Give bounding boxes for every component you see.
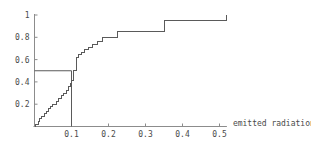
- plot-canvas: 0.20.40.60.810.10.20.30.40.5emitted radi…: [0, 0, 311, 148]
- y-tick-label: 0.4: [15, 78, 30, 87]
- x-tick-label: 0.3: [138, 130, 153, 139]
- cdf-step-plot: 0.20.40.60.810.10.20.30.40.5emitted radi…: [0, 0, 311, 148]
- y-tick-label: 0.2: [15, 100, 30, 109]
- x-axis-title: emitted radiation: [233, 119, 311, 128]
- x-tick-label: 0.4: [175, 130, 190, 139]
- y-tick-label: 0.6: [15, 56, 30, 65]
- x-tick-label: 0.1: [64, 130, 79, 139]
- y-tick-label: 1: [25, 11, 30, 20]
- y-tick-label: 0.8: [15, 33, 30, 42]
- x-tick-label: 0.2: [101, 130, 116, 139]
- x-tick-label: 0.5: [212, 130, 227, 139]
